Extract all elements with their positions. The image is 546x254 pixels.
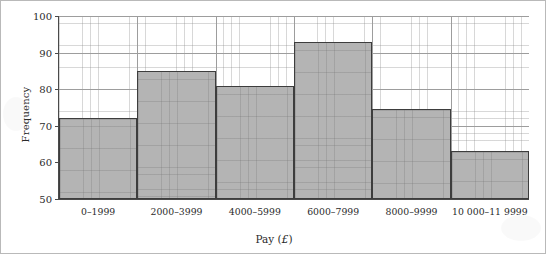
x-axis-title-prefix: Pay ( [255, 233, 281, 245]
plot-area: 5060708090100 0–19992000–39994000–599960… [58, 16, 529, 200]
x-tick-label: 8000–9999 [386, 206, 438, 217]
histogram-figure: Frequency 5060708090100 0–19992000–39994… [0, 0, 546, 254]
y-axis-title: Frequency [20, 60, 31, 170]
y-tick-label: 60 [13, 157, 59, 168]
x-tick-label: 2000–3999 [151, 206, 203, 217]
x-axis-title-suffix: ) [288, 233, 292, 245]
y-tick-mark [55, 89, 59, 90]
x-tick-label: 10 000–11 9999 [452, 206, 528, 217]
y-tick-mark [55, 126, 59, 127]
histogram-bar [451, 151, 529, 199]
y-tick-label: 50 [13, 194, 59, 205]
y-tick-label: 100 [13, 11, 59, 22]
x-axis-title: Pay (£) [1, 233, 546, 245]
y-tick-mark [55, 199, 59, 200]
histogram-bar [372, 109, 450, 199]
histogram-bar [59, 118, 137, 199]
x-tick-label: 6000–7999 [307, 206, 359, 217]
histogram-bar [137, 71, 215, 199]
y-tick-label: 90 [13, 47, 59, 58]
y-tick-mark [55, 53, 59, 54]
y-tick-label: 80 [13, 84, 59, 95]
histogram-bar [216, 86, 294, 199]
y-tick-mark [55, 162, 59, 163]
y-tick-label: 70 [13, 120, 59, 131]
x-tick-label: 0–1999 [81, 206, 115, 217]
y-tick-mark [55, 16, 59, 17]
x-tick-label: 4000–5999 [229, 206, 281, 217]
histogram-bar [294, 42, 372, 199]
